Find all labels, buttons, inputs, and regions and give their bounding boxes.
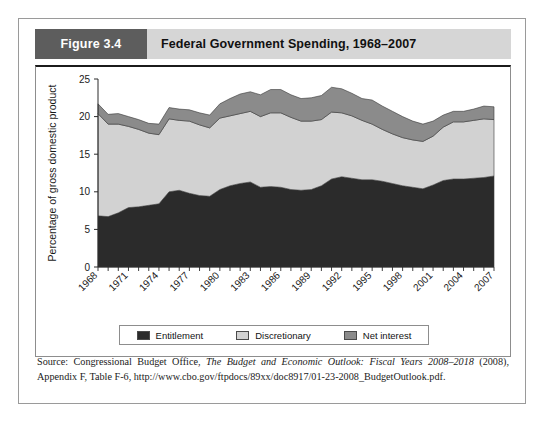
y-axis-tick-label: 25 — [79, 74, 91, 85]
source-note: Source: Congressional Budget Office, The… — [37, 355, 509, 385]
chart-legend: EntitlementDiscretionaryNet interest — [119, 325, 429, 345]
legend-swatch-icon — [236, 331, 249, 340]
figure-title: Federal Government Spending, 1968–2007 — [147, 29, 511, 59]
legend-swatch-icon — [344, 331, 357, 340]
x-axis-tick-label: 2007 — [472, 269, 496, 293]
x-axis-tick-label: 1977 — [167, 269, 191, 293]
x-axis-tick-label: 1983 — [228, 269, 252, 293]
y-axis-tick-label: 10 — [79, 186, 91, 197]
x-axis-tick-label: 2004 — [441, 269, 465, 293]
y-axis-tick-label: 20 — [79, 111, 91, 122]
legend-item-discretionary[interactable]: Discretionary — [236, 330, 310, 341]
x-axis-tick-label: 1974 — [137, 269, 161, 293]
x-axis-tick-label: 1998 — [381, 269, 405, 293]
source-title-italic: The Budget and Economic Outlook: Fiscal … — [206, 356, 474, 367]
chart-frame: 0510152025196819711974197719801983198619… — [35, 65, 511, 357]
legend-swatch-icon — [137, 331, 150, 340]
legend-label: Entitlement — [156, 330, 204, 341]
x-axis-tick-label: 1968 — [76, 269, 100, 293]
legend-label: Net interest — [363, 330, 412, 341]
legend-label: Discretionary — [255, 330, 310, 341]
x-axis-tick-label: 1986 — [259, 269, 283, 293]
y-axis-tick-label: 5 — [84, 224, 90, 235]
source-prefix: Source: Congressional Budget Office, — [37, 356, 206, 367]
x-axis-tick-label: 1989 — [289, 269, 313, 293]
x-axis-tick-label: 1971 — [106, 269, 130, 293]
figure-card: Figure 3.4 Federal Government Spending, … — [18, 18, 526, 404]
legend-item-entitlement[interactable]: Entitlement — [137, 330, 204, 341]
x-axis-tick-label: 1992 — [320, 269, 344, 293]
x-axis-tick-label: 1980 — [198, 269, 222, 293]
stacked-area-chart: 0510152025196819711974197719801983198619… — [36, 67, 510, 357]
figure-number-badge: Figure 3.4 — [35, 29, 147, 59]
y-axis-tick-label: 15 — [79, 149, 91, 160]
x-axis-tick-label: 2001 — [411, 269, 435, 293]
x-axis-tick-label: 1995 — [350, 269, 374, 293]
figure-header: Figure 3.4 Federal Government Spending, … — [35, 29, 511, 59]
y-axis-title: Percentage of gross domestic product — [46, 85, 58, 262]
legend-item-net-interest[interactable]: Net interest — [344, 330, 412, 341]
